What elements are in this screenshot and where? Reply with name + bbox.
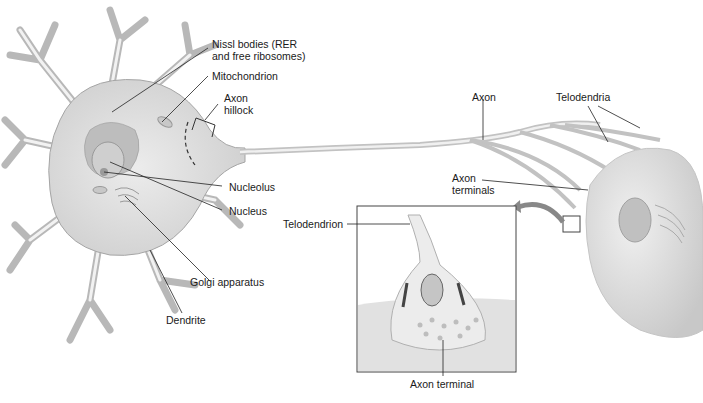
label-axon-terminal: Axon terminal bbox=[410, 378, 474, 390]
label-telodendria: Telodendria bbox=[556, 91, 610, 103]
label-golgi-apparatus: Golgi apparatus bbox=[190, 276, 264, 288]
label-axon-hillock-2: hillock bbox=[224, 104, 253, 116]
label-nucleus: Nucleus bbox=[229, 205, 267, 217]
neuron-diagram: Nissl bodies (RER and free ribosomes) Mi… bbox=[0, 0, 703, 403]
label-axon-terminals-2: terminals bbox=[452, 184, 495, 196]
label-axon-terminals: Axon bbox=[452, 172, 476, 184]
neuron-illustration bbox=[0, 0, 703, 403]
label-dendrite: Dendrite bbox=[166, 314, 206, 326]
zoom-arrow bbox=[518, 205, 563, 222]
label-axon: Axon bbox=[472, 91, 496, 103]
terminal-zoom-box bbox=[563, 216, 580, 232]
label-mitochondrion: Mitochondrion bbox=[212, 70, 278, 82]
label-nucleolus: Nucleolus bbox=[229, 181, 275, 193]
cell-body bbox=[49, 80, 245, 256]
label-nissl-bodies-2: and free ribosomes) bbox=[212, 50, 305, 62]
label-axon-hillock: Axon bbox=[224, 92, 248, 104]
label-telodendrion: Telodendrion bbox=[283, 218, 343, 230]
postsynaptic-cell bbox=[586, 148, 703, 337]
label-nissl-bodies: Nissl bodies (RER bbox=[212, 38, 297, 50]
axon-shape bbox=[240, 124, 600, 152]
